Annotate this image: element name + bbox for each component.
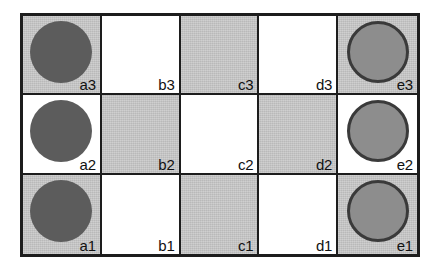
- board-cell-c2[interactable]: c2: [181, 95, 260, 174]
- game-board-grid: a3 b3 c3 d3 e3 a2 b2 c2 d2 e2: [23, 16, 417, 254]
- board-cell-a3[interactable]: a3: [23, 16, 102, 95]
- cell-label: e3: [397, 76, 413, 93]
- cell-label: c1: [238, 237, 253, 254]
- cell-label: a2: [80, 156, 96, 173]
- cell-label: a1: [80, 237, 96, 254]
- board-cell-a2[interactable]: a2: [23, 95, 102, 174]
- light-disc-piece[interactable]: [347, 180, 409, 242]
- cell-label: c3: [238, 76, 253, 93]
- board-cell-b2[interactable]: b2: [102, 95, 181, 174]
- board-cell-e1[interactable]: e1: [338, 175, 417, 254]
- cell-label: a3: [80, 76, 96, 93]
- cell-label: b3: [158, 76, 174, 93]
- dark-disc-piece[interactable]: [30, 180, 92, 242]
- cell-label: d2: [316, 156, 332, 173]
- cell-label: d1: [316, 237, 332, 254]
- board-cell-d1[interactable]: d1: [259, 175, 338, 254]
- cell-label: c2: [238, 156, 253, 173]
- light-disc-piece[interactable]: [347, 100, 409, 162]
- board-cell-a1[interactable]: a1: [23, 175, 102, 254]
- dark-disc-piece[interactable]: [30, 100, 92, 162]
- board-cell-e2[interactable]: e2: [338, 95, 417, 174]
- cell-label: e1: [397, 237, 413, 254]
- board-cell-c3[interactable]: c3: [181, 16, 260, 95]
- board-cell-d2[interactable]: d2: [259, 95, 338, 174]
- cell-label: e2: [397, 156, 413, 173]
- board-cell-c1[interactable]: c1: [181, 175, 260, 254]
- cell-label: b2: [158, 156, 174, 173]
- dark-disc-piece[interactable]: [30, 21, 92, 83]
- board-cell-d3[interactable]: d3: [259, 16, 338, 95]
- board-cell-e3[interactable]: e3: [338, 16, 417, 95]
- board-cell-b3[interactable]: b3: [102, 16, 181, 95]
- light-disc-piece[interactable]: [347, 21, 409, 83]
- cell-label: d3: [316, 76, 332, 93]
- cell-label: b1: [158, 237, 174, 254]
- board-outer-frame: a3 b3 c3 d3 e3 a2 b2 c2 d2 e2: [20, 13, 420, 257]
- board-cell-b1[interactable]: b1: [102, 175, 181, 254]
